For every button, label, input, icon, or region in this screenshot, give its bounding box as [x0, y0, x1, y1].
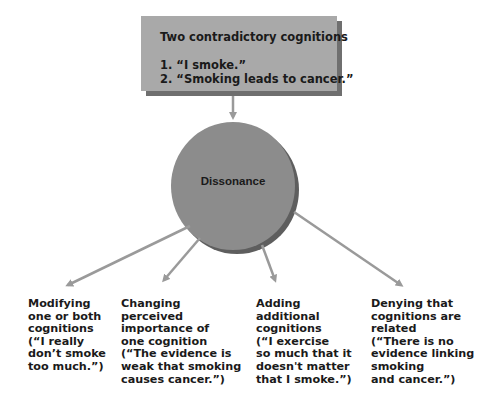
dissonance-label: Dissonance: [180, 175, 286, 187]
arrow-to-adding: [262, 245, 275, 280]
outcome-modifying: Modifying one or both cognitions (“I rea…: [28, 298, 106, 374]
arrow-to-denying: [294, 212, 401, 285]
arrow-to-changing: [164, 238, 200, 280]
outcome-denying-relation: Denying that cognitions are related (“Th…: [371, 298, 474, 386]
arrow-to-modifying: [68, 226, 190, 285]
outcome-adding-cognitions: Adding additional cognitions (“I exercis…: [256, 298, 352, 386]
outcome-changing-importance: Changing perceived importance of one cog…: [121, 298, 241, 386]
